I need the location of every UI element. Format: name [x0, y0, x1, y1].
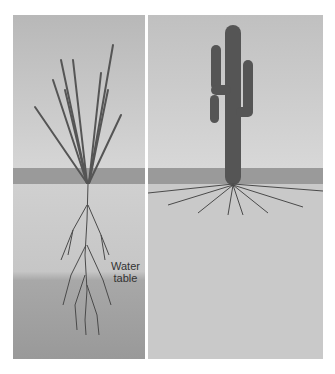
soil — [148, 184, 323, 359]
water-table-label-line2: table — [111, 272, 140, 284]
deep-root-illustration — [13, 15, 145, 359]
left-panel-deep-root-plant: Water table — [13, 15, 145, 359]
water-table-label-line1: Water — [111, 260, 140, 272]
right-panel-shallow-root-cactus — [148, 15, 323, 359]
water-table-label: Water table — [111, 260, 140, 284]
shallow-root-illustration — [148, 15, 323, 359]
